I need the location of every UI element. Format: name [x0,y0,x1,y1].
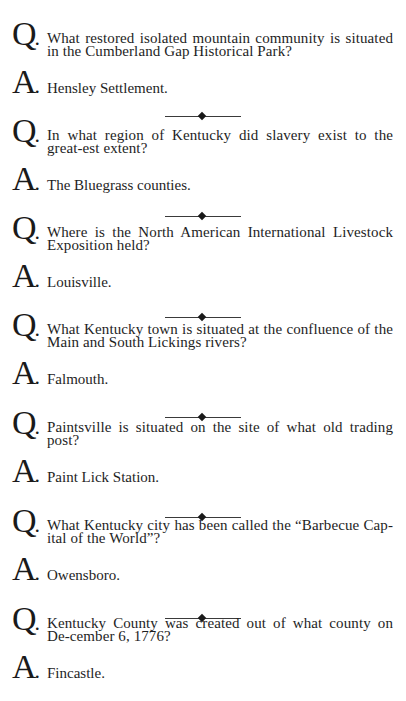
a-label: A. [12,65,39,99]
answer-text: Louisville. [47,262,406,289]
a-label: A. [12,356,39,390]
question-row: Q. Where is the North American Internati… [0,214,406,252]
q-label: Q. [12,17,39,51]
question-text: Where is the North American Internationa… [47,214,393,252]
question-row: Q. What Kentucky town is situated at the… [0,311,406,349]
a-label: A. [12,552,39,586]
question-text: In what region of Kentucky did slavery e… [47,117,393,155]
qa-item: Q. What Kentucky town is situated at the… [0,311,406,387]
answer-row: A. Fincastle. [0,653,406,681]
answer-row: A. Paint Lick Station. [0,457,406,485]
trivia-page: Q. What restored isolated mountain commu… [0,0,406,701]
answer-text: Falmouth. [47,359,406,386]
answer-row: A. Louisville. [0,262,406,290]
a-label: A. [12,162,39,196]
q-label: Q. [12,602,39,636]
qa-item: Q. What restored isolated mountain commu… [0,20,406,96]
answer-text: Owensboro. [47,555,406,582]
answer-text: The Bluegrass counties. [47,165,406,192]
answer-row: A. Falmouth. [0,359,406,387]
question-row: Q. In what region of Kentucky did slaver… [0,117,406,155]
answer-text: Paint Lick Station. [47,457,406,484]
qa-item: Q. What Kentucky city has been called th… [0,507,406,583]
answer-text: Hensley Settlement. [47,68,406,95]
answer-row: A. The Bluegrass counties. [0,165,406,193]
q-label: Q. [12,504,39,538]
answer-text: Fincastle. [47,653,406,680]
question-text: What restored isolated mountain communit… [47,20,393,58]
qa-item: Q. In what region of Kentucky did slaver… [0,117,406,193]
question-row: Q. Paintsville is situated on the site o… [0,409,406,447]
question-text: What Kentucky city has been called the “… [47,507,393,545]
a-label: A. [12,650,39,684]
q-label: Q. [12,308,39,342]
question-text: Paintsville is situated on the site of w… [47,409,393,447]
qa-item: Q. Kentucky County was created out of wh… [0,605,406,681]
q-label: Q. [12,406,39,440]
q-label: Q. [12,211,39,245]
question-row: Q. What Kentucky city has been called th… [0,507,406,545]
qa-item: Q. Paintsville is situated on the site o… [0,409,406,485]
a-label: A. [12,259,39,293]
qa-item: Q. Where is the North American Internati… [0,214,406,290]
q-label: Q. [12,114,39,148]
question-text: Kentucky County was created out of what … [47,605,393,643]
question-text: What Kentucky town is situated at the co… [47,311,393,349]
answer-row: A. Hensley Settlement. [0,68,406,96]
question-row: Q. Kentucky County was created out of wh… [0,605,406,643]
answer-row: A. Owensboro. [0,555,406,583]
a-label: A. [12,454,39,488]
question-row: Q. What restored isolated mountain commu… [0,20,406,58]
